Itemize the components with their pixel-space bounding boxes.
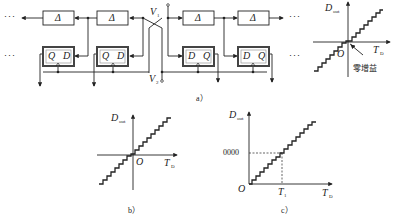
caption-a: a） bbox=[196, 95, 208, 103]
origin-label: O bbox=[136, 157, 143, 167]
delay-label: Δ bbox=[195, 13, 201, 23]
y-marker-0000: 0000 bbox=[223, 149, 239, 157]
flipflop-d: D bbox=[63, 51, 70, 61]
y-axis-label: Dout bbox=[325, 3, 332, 13]
zero-gain-annotation: 零增益 bbox=[353, 65, 377, 73]
ellipsis: ··· bbox=[289, 51, 301, 60]
origin-label: O bbox=[238, 184, 245, 194]
caption-b: b） bbox=[128, 207, 140, 215]
ellipsis: ··· bbox=[4, 12, 16, 21]
plot-c bbox=[249, 112, 332, 184]
y-axis-label: Dout bbox=[111, 113, 118, 123]
caption-c: c） bbox=[281, 207, 293, 215]
delay-label: Δ bbox=[55, 13, 61, 23]
y-axis-label: Dout bbox=[229, 110, 236, 120]
flipflop-d: D bbox=[117, 51, 124, 61]
flipflop-q: Q bbox=[48, 51, 55, 61]
x-axis-label: TD bbox=[373, 45, 379, 55]
input-v1: V1 bbox=[150, 7, 156, 17]
flipflop-q: Q bbox=[258, 51, 265, 61]
x-axis-label: TD bbox=[164, 158, 170, 168]
x-axis-label: TD bbox=[322, 188, 328, 198]
ellipsis: ··· bbox=[289, 12, 301, 21]
diagram-canvas bbox=[0, 0, 394, 221]
plot-b bbox=[97, 115, 177, 190]
delay-label: Δ bbox=[109, 13, 115, 23]
x-marker-t1: T1 bbox=[278, 187, 284, 197]
delay-label: Δ bbox=[250, 13, 256, 23]
flipflop-d: D bbox=[243, 51, 250, 61]
ellipsis: ··· bbox=[4, 51, 16, 60]
flipflop-d: D bbox=[188, 51, 195, 61]
figure: Δ Δ Δ Δ Q D Q D D Q D Q ··· ··· ··· ··· … bbox=[0, 0, 394, 221]
origin-label: O bbox=[337, 49, 344, 59]
input-v2: V2 bbox=[149, 74, 155, 84]
flipflop-q: Q bbox=[203, 51, 210, 61]
flipflop-q: Q bbox=[102, 51, 109, 61]
plot-a bbox=[313, 2, 390, 77]
